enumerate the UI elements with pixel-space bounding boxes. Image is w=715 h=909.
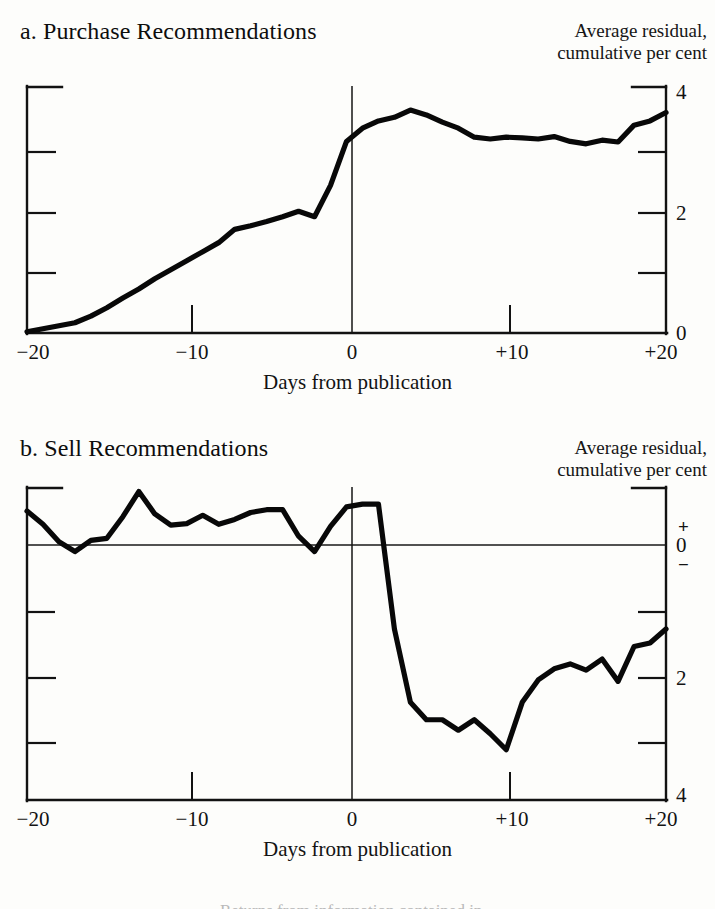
panel-a-svg bbox=[0, 0, 715, 360]
panel-b-xtick-plus10: +10 bbox=[496, 807, 529, 832]
panel-a-x-axis-title: Days from publication bbox=[0, 370, 715, 395]
panel-b-xtick-minus10: −10 bbox=[176, 807, 209, 832]
panel-b-minus-sign: − bbox=[678, 554, 689, 576]
panel-b-caption-line-1: Average residual, bbox=[557, 437, 707, 459]
panel-a-xtick-zero: 0 bbox=[347, 340, 358, 365]
panel-b-xtick-plus20: +20 bbox=[645, 807, 678, 832]
panel-a-x-ticks bbox=[192, 305, 510, 333]
footer-clipped-caption: Returns from information contained in... bbox=[0, 901, 715, 909]
panel-a-plot-area bbox=[0, 0, 715, 360]
panel-a-left-y-ticks bbox=[27, 152, 56, 273]
panel-b-ytick-4: 4 bbox=[676, 783, 687, 808]
panel-b-left-y-ticks bbox=[27, 612, 56, 743]
panel-b-data-line bbox=[27, 492, 666, 750]
panel-b-xtick-zero: 0 bbox=[347, 807, 358, 832]
panel-a-ytick-2: 2 bbox=[676, 201, 687, 226]
panel-b-ytick-2: 2 bbox=[676, 666, 687, 691]
chart-panel-purchase: a. Purchase Recommendations Average resi… bbox=[0, 0, 715, 445]
panel-b-svg bbox=[0, 475, 715, 865]
panel-a-data-line bbox=[27, 110, 666, 332]
panel-b-x-ticks bbox=[192, 772, 510, 800]
panel-b-plot-area bbox=[0, 475, 715, 865]
panel-a-xtick-minus10: −10 bbox=[176, 340, 209, 365]
panel-b-x-axis-title: Days from publication bbox=[0, 837, 715, 862]
panel-a-xtick-plus20: +20 bbox=[645, 340, 678, 365]
panel-b-title: b. Sell Recommendations bbox=[20, 435, 268, 462]
panel-b-xtick-minus20: −20 bbox=[17, 807, 50, 832]
figure-page: a. Purchase Recommendations Average resi… bbox=[0, 0, 715, 909]
panel-a-xtick-plus10: +10 bbox=[496, 340, 529, 365]
panel-a-xtick-minus20: −20 bbox=[17, 340, 50, 365]
panel-a-ytick-4: 4 bbox=[676, 80, 687, 105]
panel-a-ytick-0: 0 bbox=[676, 321, 687, 346]
chart-panel-sell: b. Sell Recommendations Average residual… bbox=[0, 445, 715, 909]
panel-a-right-y-ticks bbox=[638, 152, 666, 273]
